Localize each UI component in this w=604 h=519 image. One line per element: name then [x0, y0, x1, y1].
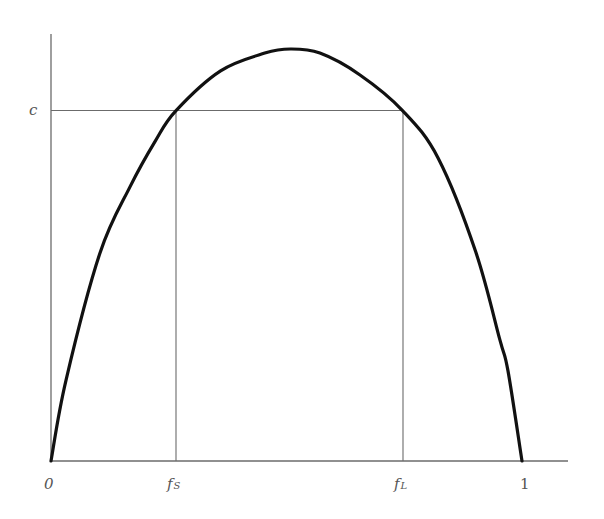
fs-subscript: S	[174, 480, 181, 491]
chart-canvas: c 0 1 fS fL	[0, 0, 604, 519]
y-tick-label-c: c	[29, 101, 38, 119]
x-tick-label-one: 1	[520, 475, 530, 493]
x-tick-label-fl: fL	[393, 475, 408, 493]
fl-subscript: L	[400, 480, 408, 491]
x-tick-label-zero: 0	[44, 475, 54, 493]
x-tick-label-fs: fS	[166, 475, 181, 493]
